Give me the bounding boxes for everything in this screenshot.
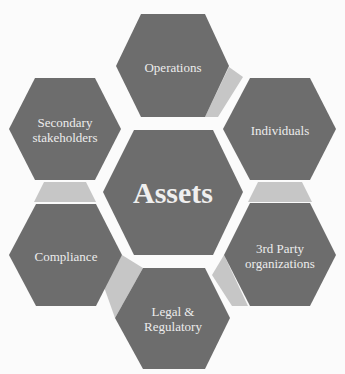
label-assets: Assets bbox=[133, 177, 213, 209]
connector-compliance-secondary bbox=[34, 182, 96, 202]
label-legal-line2: Regulatory bbox=[144, 319, 202, 334]
label-operations: Operations bbox=[144, 60, 201, 75]
label-secondary-line1: Secondary bbox=[33, 115, 98, 130]
label-secondary-line2: stakeholders bbox=[33, 130, 98, 145]
label-legal-line1: Legal & bbox=[144, 304, 202, 319]
label-secondary: Secondary stakeholders bbox=[33, 115, 98, 145]
label-compliance: Compliance bbox=[35, 249, 98, 264]
label-third-party: 3rd Party organizations bbox=[245, 241, 315, 271]
label-third-party-line2: organizations bbox=[245, 256, 315, 271]
label-individuals: Individuals bbox=[251, 123, 310, 138]
connector-individuals-thirdparty bbox=[248, 182, 312, 202]
label-legal: Legal & Regulatory bbox=[144, 304, 202, 334]
label-third-party-line1: 3rd Party bbox=[245, 241, 315, 256]
